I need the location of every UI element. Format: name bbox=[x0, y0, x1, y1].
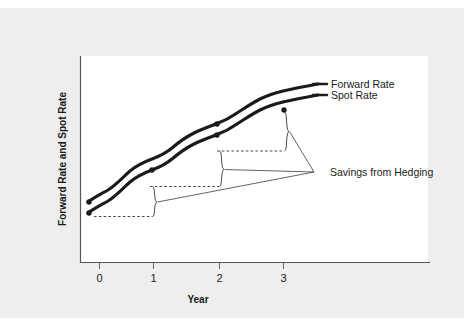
leader-from-year1-brace bbox=[158, 172, 315, 202]
marker-spot-year0 bbox=[86, 210, 91, 215]
brace-year-3 bbox=[285, 112, 289, 151]
legend-label-spot-rate: Spot Rate bbox=[331, 89, 378, 101]
marker-spot-year2 bbox=[214, 132, 219, 137]
marker-spot-year1 bbox=[149, 167, 154, 172]
marker-forward-year3 bbox=[281, 107, 286, 112]
leader-from-year3-brace bbox=[290, 132, 315, 173]
y-axis-title: Forward Rate and Spot Rate bbox=[57, 92, 68, 226]
brace-year-1 bbox=[153, 187, 157, 217]
x-tick-label-1: 1 bbox=[150, 272, 156, 284]
brace-year-2 bbox=[220, 151, 224, 187]
x-axis-title: Year bbox=[187, 294, 208, 305]
x-tick-labels: 0 1 2 3 bbox=[96, 272, 286, 284]
data-point-markers bbox=[86, 107, 286, 215]
spot-rate-curve bbox=[88, 95, 318, 213]
savings-braces bbox=[153, 112, 289, 217]
marker-forward-year2 bbox=[214, 121, 219, 126]
dashed-reference-lines bbox=[94, 151, 284, 217]
marker-forward-year0 bbox=[86, 199, 91, 204]
leader-from-year2-brace bbox=[225, 170, 315, 173]
legend-group: Forward Rate Spot Rate bbox=[313, 78, 395, 101]
annotation-label-savings-from-hedging: Savings from Hedging bbox=[330, 166, 433, 178]
x-tick-label-2: 2 bbox=[216, 272, 222, 284]
x-tick-label-3: 3 bbox=[280, 272, 286, 284]
chart-page: 0 1 2 3 Year Forward Rate and Spot Rate bbox=[0, 0, 464, 325]
x-tick-label-0: 0 bbox=[96, 272, 102, 284]
chart-svg: 0 1 2 3 Year Forward Rate and Spot Rate bbox=[0, 0, 464, 325]
